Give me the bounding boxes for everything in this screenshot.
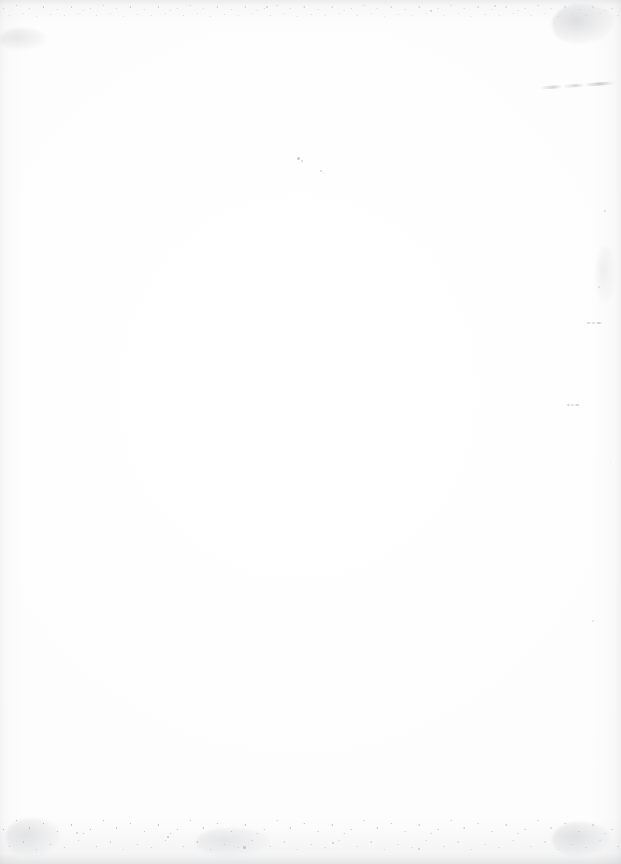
paper-surface: [0, 0, 621, 864]
scanned-page: [0, 0, 621, 864]
